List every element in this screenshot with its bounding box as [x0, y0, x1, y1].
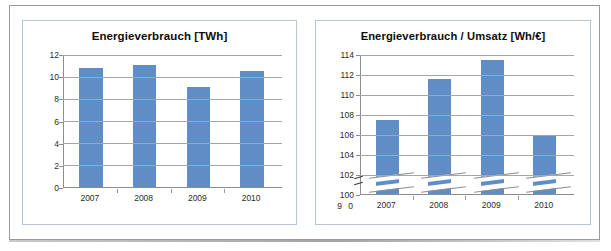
- y-axis-labels-ratio: 10010210410610811011211490: [324, 55, 354, 195]
- gridline: [63, 143, 282, 144]
- y-tick-label: 112: [340, 70, 354, 80]
- bar: [533, 136, 556, 194]
- y-tick-label: 108: [340, 110, 354, 120]
- y-tick-label: 114: [340, 50, 354, 60]
- y-tick-mark: [59, 55, 63, 56]
- x-tick-mark: [224, 189, 225, 193]
- bar: [428, 79, 451, 194]
- x-tick-label: 2008: [429, 200, 448, 210]
- figure-frame: Energieverbrauch [TWh] 024681012 2007200…: [9, 5, 600, 240]
- x-tick-mark: [465, 196, 466, 200]
- gridline: [63, 99, 282, 100]
- y-tick-mark: [356, 115, 360, 116]
- y-tick-label: 100: [340, 190, 354, 200]
- bar: [133, 65, 157, 187]
- gridline: [360, 175, 574, 176]
- y-tick-mark: [356, 95, 360, 96]
- plot-area-energy: [63, 55, 278, 188]
- y-tick-mark: [59, 77, 63, 78]
- gridline: [63, 77, 282, 78]
- y-tick-mark: [356, 135, 360, 136]
- gridline: [63, 121, 282, 122]
- y-tick-mark: [356, 75, 360, 76]
- gridline: [360, 95, 574, 96]
- chart-title-energy: Energieverbrauch [TWh]: [23, 30, 296, 42]
- x-axis-labels-ratio: 2007200820092010: [360, 200, 570, 214]
- x-tick-mark: [413, 196, 414, 200]
- chart-panel-ratio: Energieverbrauch / Umsatz [Wh/€] 1001021…: [315, 20, 591, 225]
- y-axis-labels-energy: 024681012: [29, 55, 59, 188]
- x-axis-line-ratio: [360, 194, 574, 195]
- x-tick-label: 2009: [482, 200, 501, 210]
- y-tick-label: 106: [340, 130, 354, 140]
- x-axis-labels-energy: 2007200820092010: [63, 193, 278, 207]
- y-tick-label: 102: [340, 170, 354, 180]
- y-tick-mark: [356, 55, 360, 56]
- y-tick-mark: [59, 166, 63, 167]
- y-tick-mark: [59, 99, 63, 100]
- gridline: [360, 115, 574, 116]
- y-tick-label: 104: [340, 150, 354, 160]
- chart-panel-energy: Energieverbrauch [TWh] 024681012 2007200…: [22, 20, 297, 225]
- x-tick-label: 2009: [188, 193, 207, 203]
- axis-break-label: 0: [348, 201, 353, 211]
- chart-title-ratio: Energieverbrauch / Umsatz [Wh/€]: [316, 30, 590, 42]
- x-axis-line-energy: [63, 187, 282, 188]
- gridline: [63, 55, 282, 56]
- bar: [79, 68, 103, 187]
- gridline: [360, 135, 574, 136]
- x-tick-mark: [171, 189, 172, 193]
- x-tick-label: 2008: [134, 193, 153, 203]
- y-tick-mark: [356, 195, 360, 196]
- plot-area-ratio: [360, 55, 570, 195]
- gridline: [360, 75, 574, 76]
- x-tick-mark: [518, 196, 519, 200]
- x-tick-label: 2010: [242, 193, 261, 203]
- y-tick-mark: [59, 122, 63, 123]
- x-tick-label: 2010: [534, 200, 553, 210]
- y-tick-mark: [59, 188, 63, 189]
- axis-break-label: 9: [337, 201, 342, 211]
- y-tick-label: 12: [50, 50, 59, 60]
- y-tick-mark: [356, 175, 360, 176]
- bar-series-ratio: [361, 55, 570, 194]
- bar: [187, 87, 211, 187]
- y-tick-mark: [59, 144, 63, 145]
- bar: [376, 120, 399, 194]
- gridline: [63, 165, 282, 166]
- y-tick-label: 10: [50, 72, 59, 82]
- bar: [240, 71, 264, 187]
- gridline: [360, 55, 574, 56]
- x-tick-mark: [117, 189, 118, 193]
- y-tick-mark: [356, 155, 360, 156]
- x-tick-label: 2007: [80, 193, 99, 203]
- gridline: [360, 155, 574, 156]
- y-tick-label: 110: [340, 90, 354, 100]
- x-tick-label: 2007: [377, 200, 396, 210]
